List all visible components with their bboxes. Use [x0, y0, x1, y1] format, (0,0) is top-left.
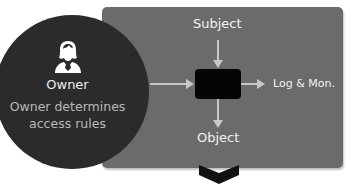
flow-arrows [0, 0, 347, 184]
log-monitoring-label: Log & Mon. [273, 77, 335, 90]
subject-label: Subject [193, 16, 242, 31]
object-label: Object [197, 130, 239, 145]
chevron-down-icon [199, 165, 239, 184]
access-control-engine [195, 69, 241, 99]
